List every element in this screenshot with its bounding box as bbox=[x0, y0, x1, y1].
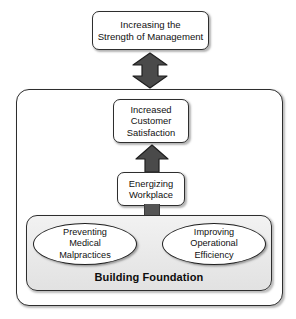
customer-satisfaction-box: Increased Customer Satisfaction bbox=[113, 99, 189, 143]
bidirectional-arrow-icon bbox=[131, 52, 169, 89]
management-strength-box: Increasing the Strength of Management bbox=[92, 11, 209, 50]
energizing-workplace-box: Energizing Workplace bbox=[117, 172, 185, 206]
foundation-item-improving-operational-efficiency: Improving Operational Efficiency bbox=[162, 223, 266, 265]
foundation-label: Building Foundation bbox=[27, 271, 271, 283]
upward-arrow-icon bbox=[134, 144, 170, 173]
strategy-diagram: Increasing the Strength of Management In… bbox=[0, 0, 296, 319]
foundation-item-preventing-medical-malpractices: Preventing Medical Malpractices bbox=[33, 223, 137, 265]
